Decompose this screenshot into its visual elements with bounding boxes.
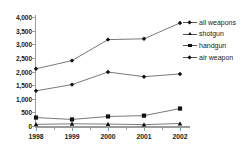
legend-item[interactable]: handgun (183, 40, 247, 52)
x-tick-mark (36, 128, 37, 131)
x-tick-mark (108, 128, 109, 131)
y-tick-mark (31, 72, 35, 73)
y-tick-mark (31, 31, 35, 32)
x-tick-mark-minor (54, 128, 55, 130)
y-tick-mark (31, 58, 35, 59)
x-tick-label: 2001 (136, 133, 151, 141)
y-tick-mark (31, 85, 35, 86)
data-point (34, 67, 38, 71)
data-point (142, 37, 146, 41)
data-point (34, 115, 38, 119)
legend-marker-diamond-icon (183, 53, 197, 62)
data-point (178, 72, 182, 76)
legend-item[interactable]: shotgun (183, 29, 247, 41)
y-tick-mark (31, 112, 35, 113)
chart-legend: all weaponsshotgunhandgunair weapon (183, 17, 247, 63)
data-point (106, 70, 110, 74)
data-point (178, 21, 182, 25)
x-tick-mark (72, 128, 73, 131)
series-line-air-weapon (36, 72, 180, 91)
legend-item[interactable]: air weapon (183, 52, 247, 64)
x-tick-label: 1999 (64, 133, 79, 141)
x-tick-label: 1998 (28, 133, 43, 141)
x-tick-mark (180, 128, 181, 131)
legend-marker-square-icon (183, 41, 197, 50)
x-tick-label: 2000 (100, 133, 115, 141)
data-point (178, 106, 182, 110)
y-tick-mark (31, 126, 35, 127)
legend-item[interactable]: all weapons (183, 17, 247, 29)
legend-marker-triangle-icon (183, 30, 197, 39)
legend-label: shotgun (197, 30, 224, 38)
data-point (106, 37, 110, 41)
x-tick-label: 2002 (172, 133, 187, 141)
data-point (142, 74, 146, 78)
data-point (142, 114, 146, 118)
legend-label: all weapons (197, 19, 236, 27)
x-tick-mark (144, 128, 145, 131)
data-point (70, 82, 74, 86)
legend-marker-diamond-icon (183, 18, 197, 27)
legend-label: air weapon (197, 54, 233, 62)
data-point (70, 117, 74, 121)
y-tick-mark (31, 44, 35, 45)
series-line-all-weapons (36, 23, 180, 69)
x-tick-mark-minor (126, 128, 127, 130)
y-tick-mark (31, 17, 35, 18)
x-tick-mark-minor (90, 128, 91, 130)
y-tick-mark (31, 99, 35, 100)
data-point (34, 89, 38, 93)
data-point (106, 114, 110, 118)
data-point (70, 58, 74, 62)
line-chart: 4,0003,5003,0002,5002,0001,5001,0005000 … (0, 0, 247, 147)
legend-label: handgun (197, 42, 226, 50)
x-tick-mark-minor (162, 128, 163, 130)
